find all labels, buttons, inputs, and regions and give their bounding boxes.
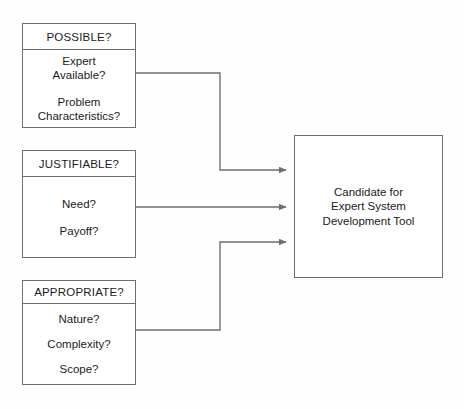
connector-possible [136,73,286,170]
criterion-box-possible: POSSIBLE? Expert Available? Problem Char… [22,23,136,128]
target-box-candidate: Candidate for Expert System Development … [294,135,443,278]
criterion-body-justifiable: Need? Payoff? [23,177,135,257]
criterion-item: Expert Available? [53,54,106,82]
target-box-label: Candidate for Expert System Development … [323,185,415,229]
criterion-header-justifiable: JUSTIFIABLE? [23,151,135,177]
criterion-header-appropriate: APPROPRIATE? [23,281,135,304]
criterion-item: Nature? [59,312,100,326]
criterion-body-possible: Expert Available? Problem Characteristic… [23,50,135,127]
criterion-item: Complexity? [47,337,110,351]
criterion-item: Need? [62,197,96,211]
criterion-header-possible: POSSIBLE? [23,24,135,50]
criterion-box-justifiable: JUSTIFIABLE? Need? Payoff? [22,150,136,258]
criterion-body-appropriate: Nature? Complexity? Scope? [23,304,135,384]
connector-appropriate [136,242,286,330]
criterion-item: Scope? [59,362,98,376]
diagram-canvas: POSSIBLE? Expert Available? Problem Char… [0,0,464,409]
criterion-item: Problem Characteristics? [38,95,120,123]
criterion-item: Payoff? [60,224,99,238]
criterion-box-appropriate: APPROPRIATE? Nature? Complexity? Scope? [22,280,136,385]
